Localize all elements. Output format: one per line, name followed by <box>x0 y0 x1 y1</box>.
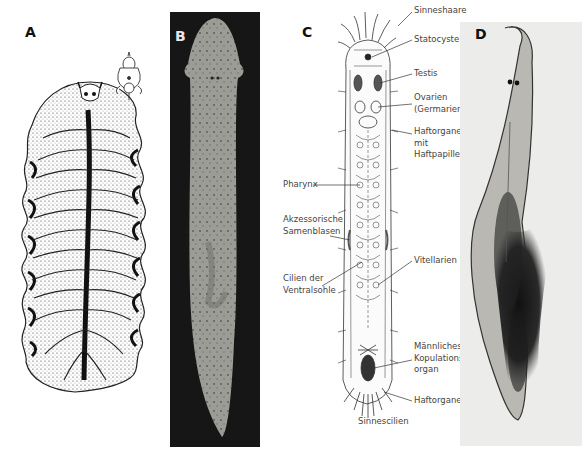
label-ovarien-line2: (Germarien) <box>414 104 466 116</box>
label-maennliches-line2: Kopulations- <box>414 353 466 365</box>
label-cilien-der-ventralsohle: Cilien der Ventralsohle <box>283 273 336 296</box>
label-akzessorische-line1: Akzessorische <box>283 214 343 226</box>
panel-d-letter: D <box>475 26 487 42</box>
label-akzessorische-samenblasen: Akzessorische Samenblasen <box>283 214 343 237</box>
label-akzessorische-line2: Samenblasen <box>283 226 343 238</box>
label-cilien-line2: Ventralsohle <box>283 285 336 297</box>
label-maennliches-kopulationsorgan: Männliches Kopulations- organ <box>414 341 466 376</box>
label-maennliches-line3: organ <box>414 364 466 376</box>
label-maennliches-line1: Männliches <box>414 341 466 353</box>
label-sinneshaare: Sinneshaare <box>414 5 467 17</box>
label-vitellarien: Vitellarien <box>414 255 457 267</box>
label-haftorgane: Haftorgane <box>414 395 462 407</box>
label-sinnescilien: Sinnescilien <box>358 416 409 428</box>
panel-d-photo-frame <box>460 22 582 446</box>
label-pharynx: Pharynx <box>283 179 318 191</box>
label-cilien-line1: Cilien der <box>283 273 336 285</box>
label-ovarien-line1: Ovarien <box>414 92 466 104</box>
label-haftorgane-mit-line1: Haftorgane <box>414 126 465 138</box>
label-haftorgane-mit-line3: Haftpapillen <box>414 149 465 161</box>
label-statocyste: Statocyste <box>414 34 459 46</box>
label-testis: Testis <box>414 68 438 80</box>
panel-d-planarian-photo <box>460 22 582 446</box>
label-haftorgane-mit-line2: mit <box>414 138 465 150</box>
label-haftorgane-mit-haftpapillen: Haftorgane mit Haftpapillen <box>414 126 465 161</box>
label-ovarien: Ovarien (Germarien) <box>414 92 466 115</box>
